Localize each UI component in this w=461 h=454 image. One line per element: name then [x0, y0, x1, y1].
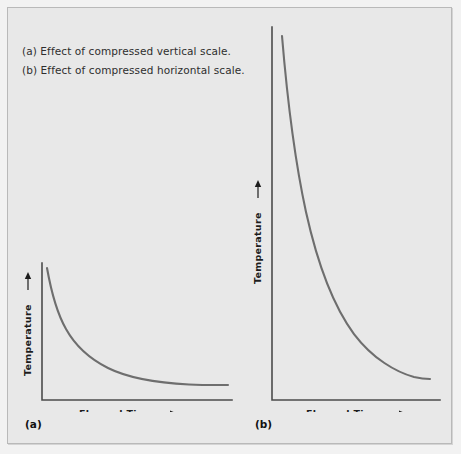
chart-b-x-arrow-head	[399, 410, 406, 412]
chart-b-x-axis-title-group: Elapsed Time	[306, 408, 406, 412]
chart-a-panel-label: (a)	[25, 418, 42, 430]
chart-panel-b: Temperature Elapsed Time (b)	[244, 16, 449, 412]
chart-a-x-arrow-head	[170, 410, 177, 412]
chart-b-y-arrow-head	[255, 180, 261, 187]
chart-a-svg: Temperature Elapsed Time	[14, 252, 244, 412]
chart-b-y-axis-title-group: Temperature	[252, 180, 263, 284]
chart-a-x-axis-title-group: Elapsed Time	[79, 408, 177, 412]
chart-a-y-axis-title-group: Temperature	[22, 272, 33, 376]
chart-panel-a: Temperature Elapsed Time (a)	[14, 252, 244, 412]
chart-a-y-arrow-head	[25, 272, 31, 279]
chart-b-curve	[282, 36, 430, 379]
chart-b-x-axis-title: Elapsed Time	[306, 408, 381, 412]
chart-a-curve	[47, 268, 228, 385]
chart-a-axes	[42, 263, 232, 400]
chart-b-svg: Temperature Elapsed Time	[244, 16, 449, 412]
chart-b-panel-label: (b)	[255, 418, 272, 430]
figure-page: (a) Effect of compressed vertical scale.…	[0, 0, 461, 454]
chart-a-y-axis-title: Temperature	[22, 304, 33, 376]
chart-b-y-axis-title: Temperature	[252, 212, 263, 284]
chart-b-axes	[272, 27, 440, 400]
chart-a-x-axis-title: Elapsed Time	[79, 408, 154, 412]
